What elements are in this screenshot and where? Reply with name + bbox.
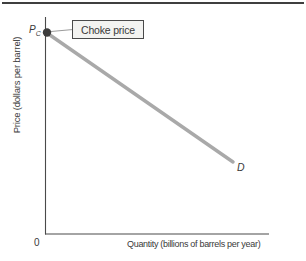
origin-tick-label: 0 <box>34 237 40 248</box>
choke-price-symbol: PC <box>29 24 41 37</box>
x-axis-label: Quantity (billions of barrels per year) <box>127 239 260 249</box>
callout-leader-line <box>51 30 73 32</box>
choke-price-callout: Choke price <box>72 20 144 39</box>
choke-price-symbol-main: P <box>29 24 36 35</box>
choke-price-callout-label: Choke price <box>81 24 135 36</box>
figure: Price (dollars per barrel) Quantity (bil… <box>0 0 306 261</box>
demand-curve-line <box>47 33 233 162</box>
choke-price-dot <box>43 28 51 36</box>
y-axis-label: Price (dollars per barrel) <box>11 19 22 151</box>
choke-price-symbol-sub: C <box>36 30 41 37</box>
plot-area <box>0 0 306 261</box>
demand-curve-label: D <box>237 161 245 173</box>
